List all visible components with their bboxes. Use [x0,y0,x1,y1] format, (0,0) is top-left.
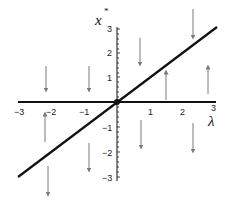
y-axis-title: x [94,12,102,28]
x-tick-neg2: −2 [46,107,56,117]
x-tick-1: 1 [148,107,153,117]
bifurcation-point [114,99,120,105]
bifurcation-diagram: 3 2 1 −1 −2 −3 −3 −2 −1 1 2 3 x * λ [0,0,230,207]
x-tick-2: 2 [180,107,185,117]
y-tick-3: 3 [107,24,112,34]
y-tick-1: 1 [107,73,112,83]
x-tick-3: 3 [211,103,216,113]
x-tick-neg1: −1 [79,107,89,117]
y-tick-neg2: −2 [102,148,112,158]
x-tick-neg3: −3 [14,107,24,117]
y-tick-2: 2 [107,48,112,58]
x-axis-title: λ [207,113,215,129]
y-tick-neg3: −3 [102,173,112,183]
y-axis-title-superscript: * [104,6,109,16]
y-tick-neg1: −1 [102,123,112,133]
